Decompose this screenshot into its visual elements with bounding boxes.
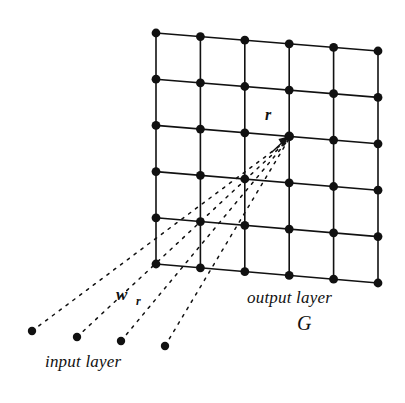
- output-layer-label: output layer: [247, 288, 332, 308]
- grid-node: [152, 29, 161, 38]
- grid-name-label: G: [297, 312, 311, 335]
- grid-node: [152, 213, 161, 222]
- grid-node: [152, 167, 161, 176]
- diagram-canvas: [0, 0, 405, 403]
- weight-vector-subscript-label: r: [136, 294, 141, 309]
- grid-node: [240, 267, 249, 276]
- grid-node: [152, 75, 161, 84]
- input-node: [161, 342, 169, 350]
- grid-node: [374, 232, 383, 241]
- grid-node: [196, 32, 205, 41]
- grid-node: [285, 39, 294, 48]
- grid-node: [329, 136, 338, 145]
- grid-node: [240, 175, 249, 184]
- grid-node: [240, 36, 249, 45]
- grid-vertical-lines: [156, 33, 378, 283]
- connection-line-3: [121, 139, 289, 341]
- grid-node: [285, 271, 294, 280]
- grid-node: [240, 221, 249, 230]
- grid-node: [240, 128, 249, 137]
- grid-node: [240, 82, 249, 91]
- input-node: [73, 333, 81, 341]
- input-layer-nodes: [28, 327, 169, 350]
- node-r-label: r: [265, 106, 271, 124]
- grid-row-line: [156, 33, 378, 51]
- grid-node: [196, 171, 205, 180]
- grid-node: [329, 228, 338, 237]
- grid-node: [374, 139, 383, 148]
- grid-node: [329, 275, 338, 284]
- grid-row-line: [156, 172, 378, 191]
- grid-row-line: [156, 125, 378, 143]
- grid-row-line: [156, 218, 378, 237]
- som-diagram-figure: output layer G input layer r w r: [0, 0, 405, 403]
- grid-node: [196, 263, 205, 272]
- input-node: [28, 327, 36, 335]
- grid-node: [374, 93, 383, 102]
- grid-horizontal-lines: [156, 33, 378, 283]
- grid-node: [152, 121, 161, 130]
- grid-node: [329, 182, 338, 191]
- grid-node: [374, 47, 383, 56]
- grid-node: [329, 43, 338, 52]
- grid-node: [374, 186, 383, 195]
- grid-node: [196, 78, 205, 87]
- weight-connection-lines: [32, 139, 289, 346]
- grid-node: [285, 86, 294, 95]
- grid-row-line: [156, 79, 378, 97]
- grid-row-line: [156, 264, 378, 283]
- input-node: [117, 337, 125, 345]
- connection-line-4: [165, 139, 289, 346]
- input-layer-label: input layer: [45, 352, 121, 372]
- grid-nodes: [152, 29, 383, 288]
- weight-vector-label: w: [116, 285, 127, 305]
- grid-node: [196, 217, 205, 226]
- grid-node: [152, 260, 161, 269]
- grid-node: [196, 125, 205, 134]
- grid-node: [374, 279, 383, 288]
- grid-node: [285, 178, 294, 187]
- grid-node: [285, 225, 294, 234]
- grid-node: [329, 89, 338, 98]
